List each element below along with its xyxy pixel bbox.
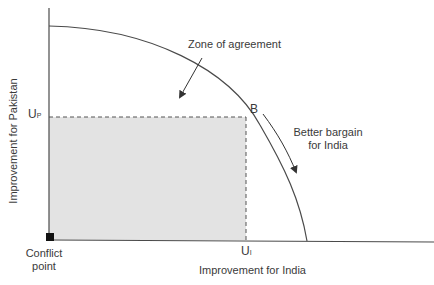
conflict-point-label: Conflict point bbox=[22, 247, 66, 273]
conflict-line2: point bbox=[22, 260, 66, 273]
zone-arrow bbox=[180, 58, 202, 97]
conflict-point-marker bbox=[46, 233, 54, 241]
conflict-line1: Conflict bbox=[22, 247, 66, 260]
better-bargain-label: Better bargain for India bbox=[288, 126, 368, 152]
up-label: UP bbox=[28, 108, 41, 122]
shaded-zone-rect bbox=[49, 117, 246, 240]
better-bargain-line1: Better bargain bbox=[288, 126, 368, 139]
x-axis bbox=[49, 240, 434, 242]
better-bargain-line2: for India bbox=[288, 139, 368, 152]
point-b-label: B bbox=[250, 103, 258, 116]
zone-of-agreement-label: Zone of agreement bbox=[188, 38, 281, 51]
y-axis-label: Improvement for Pakistan bbox=[7, 78, 19, 203]
ui-label: UI bbox=[241, 245, 252, 259]
x-axis-label: Improvement for India bbox=[199, 264, 306, 277]
